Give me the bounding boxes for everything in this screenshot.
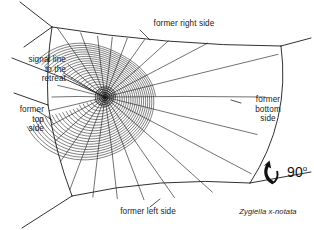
label-former-bottom-side: former bottom side (243, 95, 293, 124)
figure-canvas: signal line to the retreat former top si… (0, 0, 314, 230)
label-signal-line: signal line to the retreat (2, 55, 66, 84)
degree-symbol: o (303, 164, 308, 173)
label-species-name: Zygiella x-notata (228, 207, 308, 217)
rotation-angle-value: 90 (287, 164, 303, 180)
label-former-top-side: former top side (0, 105, 44, 134)
label-former-right-side: former right side (142, 19, 226, 29)
label-former-left-side: former left side (106, 207, 190, 217)
label-rotation-angle: 90o (287, 161, 307, 180)
